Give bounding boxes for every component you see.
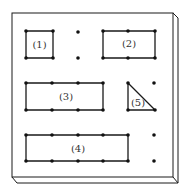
pinboard-diagram: (1) (2) (3) [0, 0, 189, 192]
free-pins-bottom-right [152, 133, 156, 163]
shape-5-label: (5) [131, 97, 145, 108]
pinboard-svg: (1) (2) (3) [0, 0, 189, 192]
shape-4-rectangle: (4) [24, 133, 130, 163]
shape-2-label: (2) [122, 38, 136, 49]
shape-3-label: (3) [59, 91, 73, 102]
shape-5-triangle: (5) [126, 81, 157, 112]
shape-3-rectangle: (3) [24, 81, 105, 112]
free-pin-right-middle [152, 81, 156, 85]
shape-1-label: (1) [32, 39, 46, 50]
board-front-face [12, 13, 173, 177]
shape-1-square: (1) [24, 29, 55, 60]
free-pins-top [76, 30, 80, 60]
shape-4-label: (4) [71, 143, 85, 154]
board-corner-edge [173, 177, 178, 183]
shape-2-rectangle: (2) [101, 29, 157, 60]
